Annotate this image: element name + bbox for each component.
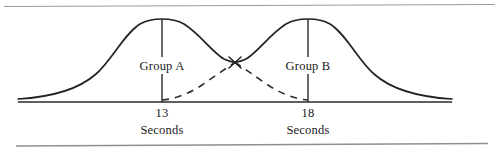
tick-value-18: 18	[301, 107, 314, 120]
distribution-figure: Group A Group B 13 Seconds 18 Seconds	[0, 0, 499, 151]
group-b-solid-curve	[235, 19, 452, 99]
tick-unit-18: Seconds	[286, 124, 329, 137]
distribution-chart-svg	[0, 0, 499, 151]
tick-value-13: 13	[155, 107, 168, 120]
crossover-x-marker	[229, 57, 241, 68]
group-b-label: Group B	[286, 60, 331, 73]
group-a-solid-curve	[18, 19, 235, 99]
group-a-label: Group A	[140, 60, 185, 73]
tick-unit-13: Seconds	[140, 124, 183, 137]
top-page-rule	[4, 5, 495, 7]
bottom-page-rule	[16, 144, 488, 147]
